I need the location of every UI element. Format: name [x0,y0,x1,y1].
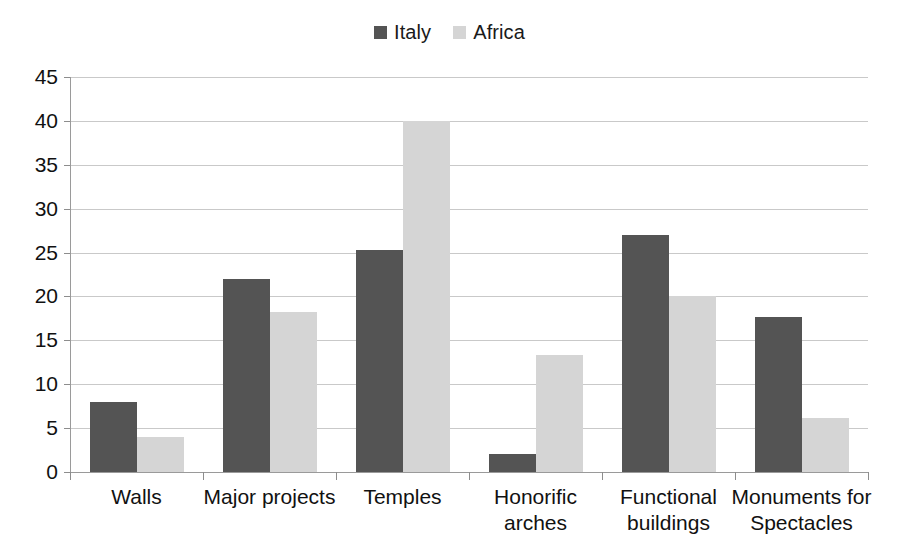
x-axis-tick [70,472,71,480]
category-label-line: Monuments for [727,484,876,510]
x-axis-category-label: Walls [62,484,211,510]
y-axis-tick-label: 20 [6,285,58,306]
y-axis-tick-label: 35 [6,154,58,175]
bar-africa[interactable] [802,418,849,472]
y-axis-tick-label: 40 [6,110,58,131]
y-axis: 051015202530354045 [0,0,58,560]
y-axis-tick-label: 5 [6,417,58,438]
bar-africa[interactable] [536,355,583,472]
bar-group [489,77,583,472]
category-label-line: Functional [594,484,743,510]
bar-italy[interactable] [489,454,536,472]
bar-italy[interactable] [755,317,802,472]
bar-africa[interactable] [403,121,450,472]
x-axis-tick [735,472,736,480]
gridline [70,253,868,254]
bar-group [622,77,716,472]
category-label-line: Spectacles [727,510,876,536]
y-axis-tick-label: 45 [6,66,58,87]
legend-label: Africa [473,22,525,42]
bar-italy[interactable] [223,279,270,472]
gridline [70,121,868,122]
bar-group [755,77,849,472]
bar-africa[interactable] [137,437,184,472]
x-axis-tick [203,472,204,480]
y-axis-line [70,77,71,473]
square-swatch-icon [453,26,466,39]
bar-italy[interactable] [90,402,137,472]
y-axis-tick-label: 10 [6,373,58,394]
bar-africa[interactable] [270,312,317,472]
category-label-line: Honorific [461,484,610,510]
bar-italy[interactable] [356,250,403,472]
gridline [70,209,868,210]
plot-area [70,77,868,472]
gridline [70,77,868,78]
chart-legend: ItalyAfrica [0,22,899,42]
category-label-line: Walls [62,484,211,510]
legend-item-italy[interactable]: Italy [374,22,431,42]
x-axis-tick [868,472,869,480]
x-axis-category-label: Honorificarches [461,484,610,536]
bar-group [223,77,317,472]
y-axis-tick-label: 25 [6,242,58,263]
x-axis-category-label: Functionalbuildings [594,484,743,536]
gridline [70,165,868,166]
x-axis-category-label: Monuments forSpectacles [727,484,876,536]
gridline [70,428,868,429]
x-axis-tick [602,472,603,480]
y-axis-tick-label: 0 [6,461,58,482]
legend-label: Italy [394,22,431,42]
x-axis-category-label: Temples [328,484,477,510]
y-axis-tick-label: 30 [6,198,58,219]
gridline [70,296,868,297]
square-swatch-icon [374,26,387,39]
bar-group [90,77,184,472]
category-label-line: buildings [594,510,743,536]
category-label-line: arches [461,510,610,536]
y-axis-tick-label: 15 [6,329,58,350]
gridline [70,340,868,341]
bar-italy[interactable] [622,235,669,472]
bar-africa[interactable] [669,296,716,472]
legend-item-africa[interactable]: Africa [453,22,525,42]
x-axis-category-label: Major projects [195,484,344,510]
category-label-line: Major projects [195,484,344,510]
gridline [70,384,868,385]
bar-chart: ItalyAfrica 051015202530354045 WallsMajo… [0,0,899,560]
x-axis-tick [336,472,337,480]
bar-group [356,77,450,472]
category-label-line: Temples [328,484,477,510]
x-axis-tick [469,472,470,480]
